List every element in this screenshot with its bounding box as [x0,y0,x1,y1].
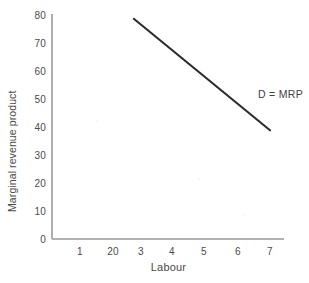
scan-speckle [243,214,245,216]
plot-area [0,0,309,283]
series-line-d-mrp [134,19,270,131]
scan-speckle [96,120,98,122]
scan-speckle [198,178,200,180]
chart-figure: Marginal revenue product 80 70 60 50 40 … [0,0,309,283]
